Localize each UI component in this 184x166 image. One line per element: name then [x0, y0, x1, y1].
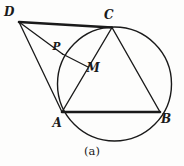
segment-DA: [19, 22, 62, 112]
circumcircle: [58, 27, 172, 141]
segment-PM: [63, 54, 89, 67]
point-label-M: M: [87, 62, 100, 74]
figure-caption: (a): [0, 146, 184, 158]
segment-CB: [112, 28, 160, 113]
point-label-D: D: [4, 6, 14, 18]
geometry-figure: D C P M A B (a): [0, 0, 184, 166]
segment-DC: [19, 22, 112, 28]
point-label-A: A: [53, 117, 62, 129]
geometry-canvas: [0, 0, 184, 166]
point-label-B: B: [161, 113, 171, 125]
point-label-C: C: [104, 9, 114, 21]
point-label-P: P: [53, 41, 61, 52]
